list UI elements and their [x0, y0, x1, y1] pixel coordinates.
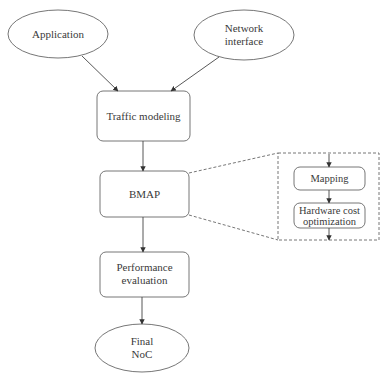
arrow-application-to-traffic: [82, 56, 118, 91]
hardware-cost-line2: optimization: [303, 216, 356, 227]
hardware-cost-label: Hardware cost optimization: [294, 204, 365, 227]
bmap-text: BMAP: [129, 188, 160, 201]
network-interface-line1: Network: [225, 22, 264, 35]
final-noc-label: Final NoC: [95, 333, 189, 363]
bmap-label: BMAP: [100, 184, 189, 204]
flow-diagram: [0, 0, 390, 384]
performance-line1: Performance: [116, 261, 172, 274]
performance-evaluation-label: Performance evaluation: [100, 259, 189, 289]
application-text: Application: [32, 28, 84, 41]
performance-line2: evaluation: [122, 274, 168, 287]
traffic-modeling-text: Traffic modeling: [106, 110, 180, 123]
network-interface-label: Network interface: [194, 20, 294, 50]
mapping-label: Mapping: [294, 168, 365, 189]
network-interface-line2: interface: [225, 35, 263, 48]
final-noc-line2: NoC: [132, 348, 153, 361]
final-noc-line1: Final: [131, 335, 154, 348]
arrow-network-to-traffic: [171, 57, 219, 91]
traffic-modeling-label: Traffic modeling: [97, 106, 190, 126]
hardware-cost-line1: Hardware cost: [299, 205, 360, 216]
zoom-line-bottom: [189, 215, 278, 240]
application-label: Application: [8, 24, 108, 44]
mapping-text: Mapping: [311, 173, 349, 184]
zoom-line-top: [189, 153, 278, 173]
